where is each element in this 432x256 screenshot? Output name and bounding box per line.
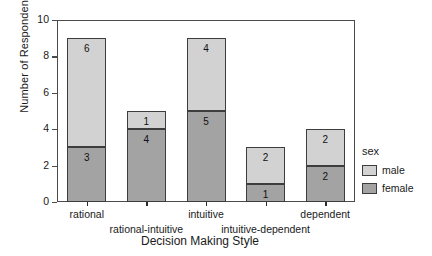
- bar-value-label: 4: [128, 134, 165, 146]
- x-tick-mark: [146, 202, 147, 206]
- y-tick-6: 6: [0, 93, 57, 94]
- bar-segment-male: 6: [67, 38, 106, 147]
- chart-figure: Number of Respondents 0246810 3641541222…: [0, 0, 432, 256]
- x-tick-mark: [87, 202, 88, 206]
- y-tick-label: 4: [43, 122, 49, 135]
- bar-segment-female: 5: [187, 111, 226, 202]
- x-axis-title: Decision Making Style: [0, 234, 400, 249]
- legend-item-male: male: [362, 163, 432, 178]
- y-tick-10: 10: [0, 20, 57, 21]
- bar-segment-female: 1: [246, 184, 285, 202]
- bar-segment-female: 3: [67, 147, 106, 202]
- bar-segment-male: 1: [127, 111, 166, 129]
- bar-segment-female: 2: [306, 166, 345, 202]
- x-tick-mark: [325, 202, 326, 206]
- bar-value-label: 2: [307, 134, 344, 146]
- bar-value-label: 3: [68, 152, 105, 164]
- legend-label: male: [382, 164, 405, 177]
- stacked-bar: 41: [127, 111, 166, 202]
- legend-entries: malefemale: [362, 163, 432, 196]
- y-tick-label: 8: [43, 49, 49, 62]
- legend-swatch-icon: [362, 183, 377, 194]
- y-tick-label: 10: [37, 13, 49, 26]
- y-tick-label: 0: [43, 195, 49, 208]
- bar-value-label: 2: [247, 152, 284, 164]
- bar-value-label: 4: [188, 43, 225, 55]
- bars-layer: 3641541222: [57, 20, 355, 202]
- bar-segment-female: 4: [127, 129, 166, 202]
- x-tick-mark: [266, 202, 267, 206]
- bar-segment-male: 2: [306, 129, 345, 165]
- y-tick-8: 8: [0, 56, 57, 57]
- y-tick-label: 6: [43, 86, 49, 99]
- legend-label: female: [382, 182, 414, 195]
- y-tick-label: 2: [43, 159, 49, 172]
- bar-value-label: 5: [188, 116, 225, 128]
- legend-item-female: female: [362, 181, 432, 196]
- x-tick-label: dependent: [255, 208, 395, 221]
- stacked-bar: 12: [246, 147, 285, 202]
- bar-value-label: 6: [68, 43, 105, 55]
- stacked-bar: 36: [67, 38, 106, 202]
- legend-title: sex: [362, 144, 432, 158]
- y-tick-2: 2: [0, 166, 57, 167]
- bar-segment-male: 4: [187, 38, 226, 111]
- y-tick-mark: [52, 202, 57, 203]
- x-tick-mark: [206, 202, 207, 206]
- stacked-bar: 22: [306, 129, 345, 202]
- y-tick-4: 4: [0, 129, 57, 130]
- legend: sex malefemale: [362, 144, 432, 199]
- bar-segment-male: 2: [246, 147, 285, 183]
- bar-value-label: 2: [307, 171, 344, 183]
- bar-value-label: 1: [247, 189, 284, 201]
- stacked-bar: 54: [187, 38, 226, 202]
- legend-swatch-icon: [362, 165, 377, 176]
- y-tick-0: 0: [0, 202, 57, 203]
- bar-value-label: 1: [128, 116, 165, 128]
